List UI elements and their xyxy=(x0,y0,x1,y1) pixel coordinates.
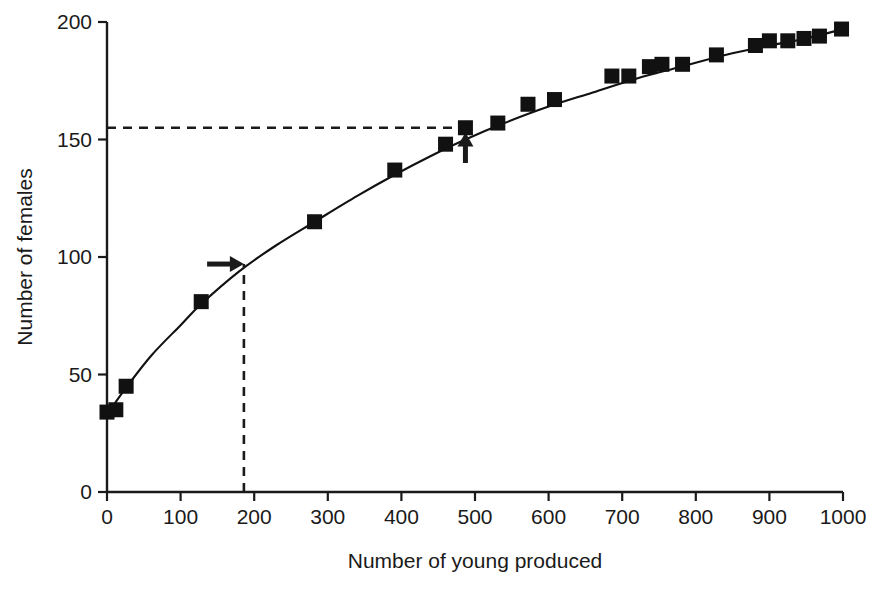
data-point-marker xyxy=(621,69,636,84)
y-axis-title: Number of females xyxy=(13,168,36,345)
data-point-marker xyxy=(796,31,811,46)
x-tick-label: 1000 xyxy=(820,505,867,528)
data-point-marker xyxy=(119,379,134,394)
data-point-marker xyxy=(604,69,619,84)
data-point-marker xyxy=(307,214,322,229)
x-tick-label: 0 xyxy=(101,505,113,528)
data-point-marker xyxy=(762,33,777,48)
data-point-marker xyxy=(547,92,562,107)
data-point-marker xyxy=(458,120,473,135)
chart-figure: 0501001502000100200300400500600700800900… xyxy=(0,0,879,595)
x-tick-label: 900 xyxy=(752,505,787,528)
data-point-marker xyxy=(194,294,209,309)
data-point-marker xyxy=(709,47,724,62)
data-point-marker xyxy=(834,22,849,37)
data-point-marker xyxy=(520,97,535,112)
y-tick-label: 100 xyxy=(57,245,92,268)
x-tick-label: 300 xyxy=(310,505,345,528)
data-point-marker xyxy=(490,116,505,131)
x-tick-label: 100 xyxy=(163,505,198,528)
data-point-marker xyxy=(387,163,402,178)
data-point-marker xyxy=(654,57,669,72)
y-tick-label: 150 xyxy=(57,128,92,151)
data-point-marker xyxy=(438,137,453,152)
data-point-marker xyxy=(812,29,827,44)
data-point-marker xyxy=(748,38,763,53)
data-point-marker xyxy=(780,33,795,48)
data-point-marker xyxy=(108,402,123,417)
y-tick-label: 50 xyxy=(69,363,92,386)
x-tick-label: 600 xyxy=(531,505,566,528)
x-tick-label: 500 xyxy=(457,505,492,528)
x-tick-label: 700 xyxy=(605,505,640,528)
x-tick-label: 200 xyxy=(237,505,272,528)
x-axis-title: Number of young produced xyxy=(348,549,603,572)
x-tick-label: 400 xyxy=(384,505,419,528)
y-tick-label: 0 xyxy=(80,480,92,503)
data-point-marker xyxy=(675,57,690,72)
y-tick-label: 200 xyxy=(57,10,92,33)
x-tick-label: 800 xyxy=(678,505,713,528)
figure-background xyxy=(0,0,879,595)
